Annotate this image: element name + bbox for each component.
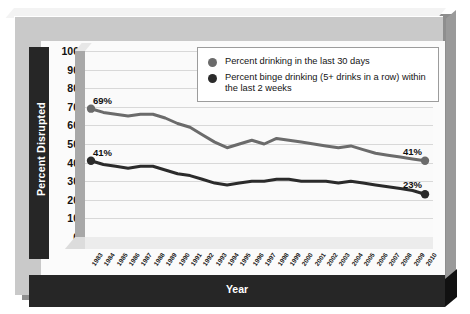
data-point-label: 41% xyxy=(93,147,112,158)
frame-side-bevel xyxy=(446,10,456,300)
series-line xyxy=(91,161,425,195)
y-axis-title-band: Percent Disrupted xyxy=(29,47,49,259)
series-endpoint-marker xyxy=(421,190,429,198)
legend-item-1: Percent binge drinking (5+ drinks in a r… xyxy=(208,72,430,94)
data-point-label: 69% xyxy=(93,95,112,106)
legend-marker-circle-icon xyxy=(208,58,217,67)
x-axis-title: Year xyxy=(29,283,445,295)
y-axis-title: Percent Disrupted xyxy=(35,49,47,249)
chart-screenshot: Percent Disrupted 1009080706050403020100… xyxy=(0,0,470,314)
series-endpoint-marker xyxy=(87,157,95,165)
plot-floor xyxy=(85,237,433,249)
legend-marker-circle-icon xyxy=(208,74,217,83)
legend-label: Percent drinking in the last 30 days xyxy=(225,56,370,67)
chart-frame: Percent Disrupted 1009080706050403020100… xyxy=(14,16,443,295)
legend-item-0: Percent drinking in the last 30 days xyxy=(208,56,370,67)
legend: Percent drinking in the last 30 days Per… xyxy=(197,47,439,102)
series-endpoint-marker xyxy=(87,104,95,112)
x-axis-title-band: Year xyxy=(29,275,445,307)
y-axis-wall xyxy=(75,51,85,237)
series-endpoint-marker xyxy=(421,157,429,165)
data-point-label: 23% xyxy=(403,179,422,190)
legend-label: Percent binge drinking (5+ drinks in a r… xyxy=(225,72,430,94)
series-line xyxy=(91,109,425,161)
data-point-label: 41% xyxy=(403,146,422,157)
